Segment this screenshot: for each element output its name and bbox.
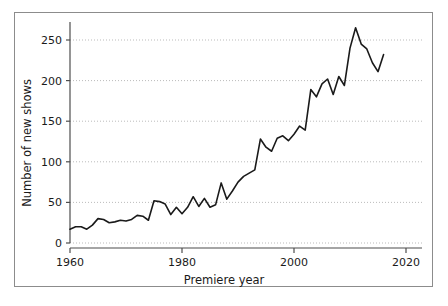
y-tick-label-100: 100 bbox=[41, 156, 62, 169]
x-tick-label-1960: 1960 bbox=[56, 256, 84, 269]
y-axis-title: Number of new shows bbox=[20, 79, 34, 207]
y-tick-label-250: 250 bbox=[41, 34, 62, 47]
x-tick-label-2000: 2000 bbox=[280, 256, 308, 269]
x-axis: 1960198020002020 bbox=[56, 248, 422, 269]
y-tick-label-150: 150 bbox=[41, 115, 62, 128]
chart-figure: 050100150200250 1960198020002020 Premier… bbox=[0, 0, 448, 306]
grid-lines bbox=[70, 40, 422, 243]
y-tick-label-0: 0 bbox=[55, 237, 62, 250]
y-axis: 050100150200250 bbox=[41, 22, 70, 250]
y-tick-label-50: 50 bbox=[48, 196, 62, 209]
x-tick-label-1980: 1980 bbox=[168, 256, 196, 269]
line-chart-svg: 050100150200250 1960198020002020 Premier… bbox=[0, 0, 448, 306]
data-series bbox=[70, 28, 384, 229]
x-axis-title: Premiere year bbox=[184, 273, 265, 287]
y-tick-label-200: 200 bbox=[41, 75, 62, 88]
plot-area: 050100150200250 1960198020002020 Premier… bbox=[0, 0, 448, 306]
series-line-new-shows bbox=[70, 28, 384, 229]
x-tick-label-2020: 2020 bbox=[392, 256, 420, 269]
